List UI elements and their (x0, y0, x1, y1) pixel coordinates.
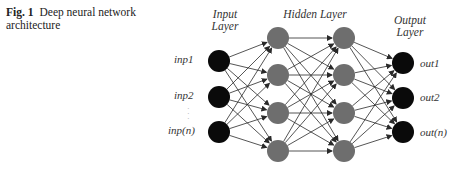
hidden1-node-1 (267, 27, 289, 49)
edge-arrow (225, 48, 272, 123)
edges (225, 38, 397, 151)
output-label-1: out1 (420, 57, 440, 69)
edge-arrow (354, 42, 392, 58)
output-node-2 (392, 87, 414, 109)
edge-arrow (355, 101, 392, 110)
network-graph (0, 0, 466, 174)
hidden1-node-2 (267, 64, 289, 86)
output-label-2: out2 (420, 91, 440, 103)
edge-arrow (227, 104, 269, 142)
edge-arrow (230, 100, 267, 110)
edge-arrow (229, 135, 266, 147)
edge-arrow (354, 136, 391, 148)
edge-arrow (285, 47, 336, 105)
edge-arrow (227, 68, 269, 105)
edge-arrow (355, 65, 391, 72)
hidden2-node-3 (333, 102, 355, 124)
hidden2-node-4 (333, 140, 355, 162)
edge-arrow (350, 73, 396, 142)
input-label-1: inp1 (174, 53, 194, 65)
ellipsis-dots: ··· (187, 106, 190, 121)
input-label-2: inp2 (174, 89, 194, 101)
input-node-2 (208, 86, 230, 108)
input-node-3 (208, 121, 230, 143)
output-node-3 (392, 121, 414, 143)
input-node-1 (208, 50, 230, 72)
edge-arrow (229, 117, 266, 129)
hidden1-node-4 (267, 140, 289, 162)
hidden1-node-3 (267, 102, 289, 124)
edge-arrow (284, 48, 338, 141)
hidden2-node-2 (333, 64, 355, 86)
output-node-1 (392, 52, 414, 74)
hidden2-node-1 (333, 27, 355, 49)
edge-arrow (227, 46, 270, 89)
edge-arrow (225, 70, 271, 141)
edge-arrow (352, 106, 394, 144)
edge-arrow (352, 71, 393, 106)
edge-arrow (352, 46, 395, 90)
output-label-n: out(n) (420, 126, 447, 138)
input-label-n: inp(n) (168, 124, 195, 136)
